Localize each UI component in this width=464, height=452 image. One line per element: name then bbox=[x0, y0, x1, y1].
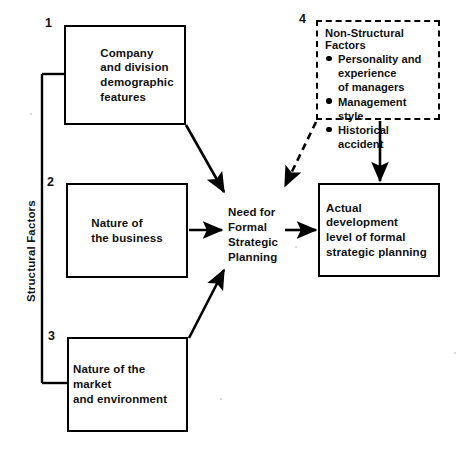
list-item: Historical accident bbox=[325, 123, 432, 151]
non-structural-content: Non-Structural Factors Personality and e… bbox=[318, 22, 438, 156]
scan-artifact bbox=[454, 352, 456, 354]
list-item-text: Personality and experience of managers bbox=[338, 53, 421, 93]
scan-artifact bbox=[220, 398, 222, 400]
scan-artifact bbox=[30, 113, 32, 115]
bullet-icon bbox=[326, 56, 332, 62]
bullet-icon bbox=[326, 98, 332, 104]
list-item: Management style bbox=[325, 95, 432, 123]
box-number-1: 1 bbox=[45, 17, 52, 30]
non-structural-title: Non-Structural Factors bbox=[325, 27, 432, 51]
non-structural-list: Personality and experience of managers M… bbox=[325, 52, 432, 152]
arrow-market-to-need bbox=[189, 270, 224, 338]
box-actual-development-level: Actual development level of formal strat… bbox=[318, 183, 440, 277]
scan-artifact bbox=[295, 246, 297, 248]
box-number-4: 4 bbox=[299, 13, 306, 26]
box-company-demographics: Company and division demographic feature… bbox=[64, 25, 186, 125]
box-actual-development-level-text: Actual development level of formal strat… bbox=[320, 201, 438, 260]
box-nature-of-market-text: Nature of the market and environment bbox=[69, 362, 186, 406]
box-number-3: 3 bbox=[48, 330, 55, 343]
box-non-structural-factors: Non-Structural Factors Personality and e… bbox=[316, 20, 440, 120]
box-number-2: 2 bbox=[47, 176, 54, 189]
box-nature-of-business-text: Nature of the business bbox=[91, 216, 163, 245]
box-company-demographics-text: Company and division demographic feature… bbox=[100, 46, 173, 105]
list-item: Personality and experience of managers bbox=[325, 52, 432, 95]
bullet-icon bbox=[326, 127, 332, 133]
node-need-for-formal-strategic-planning: Need for Formal Strategic Planning bbox=[228, 205, 278, 265]
list-item-text: Historical accident bbox=[338, 124, 389, 150]
list-item-text: Management style bbox=[338, 96, 406, 122]
box-nature-of-market: Nature of the market and environment bbox=[67, 337, 188, 432]
structural-factors-label: Structural Factors bbox=[25, 200, 37, 302]
arrow-company-to-need bbox=[186, 125, 224, 192]
diagram-canvas: 1 2 3 4 Structural Factors Company and d… bbox=[0, 0, 464, 452]
arrow-nonstructural-to-need-dashed bbox=[285, 122, 316, 186]
box-nature-of-business: Nature of the business bbox=[66, 183, 188, 278]
